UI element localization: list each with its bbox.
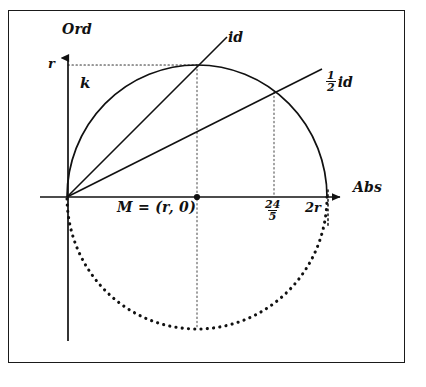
twentyfour-fifths-fraction: 24 5: [264, 199, 281, 222]
x-axis-label: Abs: [353, 180, 382, 194]
y-tick-label-r: r: [48, 57, 55, 70]
y-axis-label: Ord: [62, 22, 92, 36]
identity-line-label: id: [228, 30, 243, 44]
x-tick-label-24-5: 24 5: [264, 199, 281, 222]
half-identity-line: [67, 69, 322, 197]
fraction-numerator: 24: [264, 199, 281, 210]
half-identity-line-label: 1 2 id: [326, 70, 353, 93]
half-identity-line-name: id: [338, 75, 353, 89]
centre-point-label: M = (r, 0): [117, 200, 196, 214]
fraction-denominator: 5: [268, 210, 278, 222]
x-tick-label-2r: 2r: [305, 201, 321, 214]
circle-label-k: k: [80, 76, 90, 91]
fraction-numerator: 1: [326, 70, 336, 81]
one-half-fraction: 1 2: [326, 70, 336, 93]
identity-line: [67, 37, 227, 197]
fraction-denominator: 2: [326, 81, 336, 93]
figure-container: Ord Abs r k id 1 2 id M = (r, 0) 2r 24 5: [0, 0, 426, 387]
